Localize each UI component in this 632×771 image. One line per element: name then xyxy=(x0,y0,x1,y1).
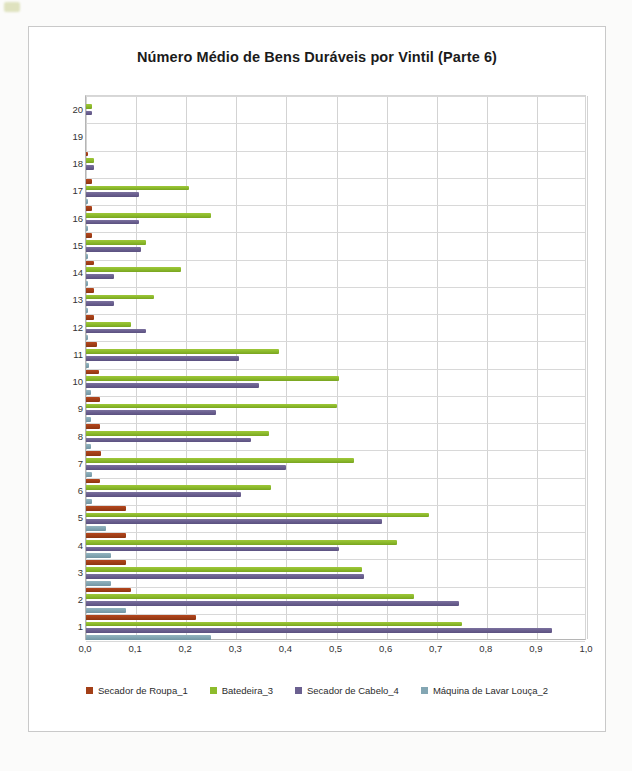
bar-batedeira-3-20 xyxy=(86,104,92,109)
bar-m-quina-de-lavar-lou-a-2-8 xyxy=(86,444,91,449)
bar-secador-de-roupa-1-3 xyxy=(86,560,126,565)
x-tick-label-4: 0,4 xyxy=(279,643,292,654)
bar-group-category-8 xyxy=(86,423,585,450)
y-tick-label-17: 17 xyxy=(72,185,83,196)
bar-secador-de-cabelo-4-18 xyxy=(86,165,94,170)
bar-group-category-2 xyxy=(86,587,585,614)
bar-secador-de-cabelo-4-20 xyxy=(86,111,92,116)
gridline-x-10 xyxy=(587,96,588,639)
y-tick-label-16: 16 xyxy=(72,212,83,223)
bar-m-quina-de-lavar-lou-a-2-2 xyxy=(86,608,126,613)
bar-batedeira-3-12 xyxy=(86,322,131,327)
y-tick-label-8: 8 xyxy=(78,430,83,441)
legend-item-3[interactable]: Máquina de Lavar Louça_2 xyxy=(421,685,548,696)
x-tick-label-8: 0,8 xyxy=(479,643,492,654)
bar-batedeira-3-13 xyxy=(86,295,154,300)
y-axis-labels: 2019181716151413121110987654321 xyxy=(43,95,83,640)
bar-batedeira-3-9 xyxy=(86,404,337,409)
bar-secador-de-roupa-1-14 xyxy=(86,261,94,266)
legend-swatch-icon-3 xyxy=(421,687,428,694)
bar-group-category-12 xyxy=(86,314,585,341)
bar-secador-de-cabelo-4-7 xyxy=(86,465,286,470)
y-tick-label-14: 14 xyxy=(72,267,83,278)
bar-group-category-20 xyxy=(86,96,585,123)
x-tick-label-7: 0,7 xyxy=(429,643,442,654)
x-tick-label-5: 0,5 xyxy=(329,643,342,654)
y-tick-label-7: 7 xyxy=(78,457,83,468)
bar-secador-de-cabelo-4-14 xyxy=(86,274,114,279)
y-tick-label-4: 4 xyxy=(78,539,83,550)
x-axis-labels: 0,00,10,20,30,40,50,60,70,80,91,0 xyxy=(85,643,586,663)
bar-secador-de-cabelo-4-4 xyxy=(86,547,339,552)
legend-item-2[interactable]: Secador de Cabelo_4 xyxy=(295,685,399,696)
bar-batedeira-3-5 xyxy=(86,513,429,518)
bar-m-quina-de-lavar-lou-a-2-17 xyxy=(86,199,88,204)
bar-group-category-16 xyxy=(86,205,585,232)
bar-m-quina-de-lavar-lou-a-2-14 xyxy=(86,281,88,286)
x-tick-label-0: 0,0 xyxy=(78,643,91,654)
y-tick-label-19: 19 xyxy=(72,130,83,141)
bar-group-category-3 xyxy=(86,559,585,586)
bar-secador-de-cabelo-4-13 xyxy=(86,301,114,306)
bar-secador-de-roupa-1-1 xyxy=(86,615,196,620)
y-tick-label-20: 20 xyxy=(72,103,83,114)
y-tick-label-3: 3 xyxy=(78,566,83,577)
bar-secador-de-cabelo-4-12 xyxy=(86,329,146,334)
bar-secador-de-roupa-1-12 xyxy=(86,315,94,320)
bar-batedeira-3-10 xyxy=(86,376,339,381)
bar-secador-de-cabelo-4-6 xyxy=(86,492,241,497)
bar-batedeira-3-17 xyxy=(86,186,189,191)
y-tick-label-10: 10 xyxy=(72,376,83,387)
bar-secador-de-roupa-1-18 xyxy=(86,152,88,157)
bar-secador-de-cabelo-4-8 xyxy=(86,438,251,443)
bar-batedeira-3-2 xyxy=(86,594,414,599)
bar-m-quina-de-lavar-lou-a-2-10 xyxy=(86,390,91,395)
legend-item-0[interactable]: Secador de Roupa_1 xyxy=(86,685,188,696)
bar-group-category-13 xyxy=(86,287,585,314)
bar-secador-de-roupa-1-17 xyxy=(86,179,92,184)
bar-m-quina-de-lavar-lou-a-2-12 xyxy=(86,335,88,340)
chart-legend: Secador de Roupa_1Batedeira_3Secador de … xyxy=(29,685,605,696)
plot-area xyxy=(85,95,586,640)
y-tick-label-15: 15 xyxy=(72,239,83,250)
y-tick-label-13: 13 xyxy=(72,294,83,305)
legend-item-label: Secador de Roupa_1 xyxy=(98,685,188,696)
bar-secador-de-cabelo-4-10 xyxy=(86,383,259,388)
bar-batedeira-3-4 xyxy=(86,540,397,545)
x-tick-label-1: 0,1 xyxy=(128,643,141,654)
legend-item-label: Batedeira_3 xyxy=(222,685,273,696)
legend-swatch-icon-2 xyxy=(295,687,302,694)
legend-item-1[interactable]: Batedeira_3 xyxy=(210,685,273,696)
bar-m-quina-de-lavar-lou-a-2-9 xyxy=(86,417,91,422)
x-tick-label-2: 0,2 xyxy=(179,643,192,654)
chart-title: Número Médio de Bens Duráveis por Vintil… xyxy=(29,49,605,65)
bar-secador-de-cabelo-4-2 xyxy=(86,601,459,606)
bar-secador-de-roupa-1-13 xyxy=(86,288,94,293)
bar-secador-de-cabelo-4-3 xyxy=(86,574,364,579)
bar-group-category-15 xyxy=(86,232,585,259)
bar-m-quina-de-lavar-lou-a-2-11 xyxy=(86,363,89,368)
bar-secador-de-roupa-1-2 xyxy=(86,588,131,593)
bar-m-quina-de-lavar-lou-a-2-6 xyxy=(86,499,92,504)
bar-secador-de-cabelo-4-11 xyxy=(86,356,239,361)
y-tick-label-1: 1 xyxy=(78,621,83,632)
y-tick-label-5: 5 xyxy=(78,512,83,523)
bar-batedeira-3-16 xyxy=(86,213,211,218)
bar-secador-de-cabelo-4-16 xyxy=(86,220,139,225)
bar-secador-de-roupa-1-5 xyxy=(86,506,126,511)
bar-batedeira-3-1 xyxy=(86,622,462,627)
bar-m-quina-de-lavar-lou-a-2-16 xyxy=(86,226,88,231)
bar-series-group xyxy=(86,96,585,639)
bar-batedeira-3-3 xyxy=(86,567,362,572)
x-tick-label-10: 1,0 xyxy=(579,643,592,654)
bar-m-quina-de-lavar-lou-a-2-13 xyxy=(86,308,88,313)
bar-batedeira-3-11 xyxy=(86,349,279,354)
page-corner-artifact xyxy=(4,2,20,12)
x-tick-label-9: 0,9 xyxy=(529,643,542,654)
bar-group-category-17 xyxy=(86,178,585,205)
bar-batedeira-3-15 xyxy=(86,240,146,245)
y-tick-label-12: 12 xyxy=(72,321,83,332)
bar-secador-de-roupa-1-6 xyxy=(86,479,100,484)
bar-secador-de-roupa-1-8 xyxy=(86,424,100,429)
legend-swatch-icon-0 xyxy=(86,687,93,694)
